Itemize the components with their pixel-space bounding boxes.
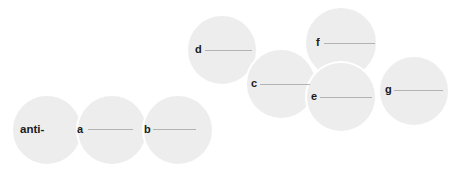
panel-label-b: b: [144, 124, 151, 135]
panel-disc-b: [142, 94, 214, 166]
panel-disc-a: [76, 94, 148, 166]
panel-label-anti: anti-: [20, 124, 44, 136]
panel-scalebar-c: [260, 84, 310, 85]
panel-scalebar-f: [324, 43, 375, 44]
panel-label-d: d: [195, 44, 202, 55]
panel-label-f: f: [316, 37, 320, 48]
panel-label-a: a: [77, 124, 83, 135]
panel-scalebar-a: [88, 129, 133, 130]
panel-scalebar-e: [320, 97, 372, 98]
panel-label-c: c: [251, 78, 257, 89]
panel-label-e: e: [311, 91, 317, 102]
panel-label-g: g: [385, 84, 392, 95]
panel-scalebar-b: [153, 129, 196, 130]
figure-canvas: anti-abdcfeg: [0, 0, 465, 179]
panel-scalebar-g: [394, 90, 443, 91]
panel-scalebar-d: [205, 50, 252, 51]
